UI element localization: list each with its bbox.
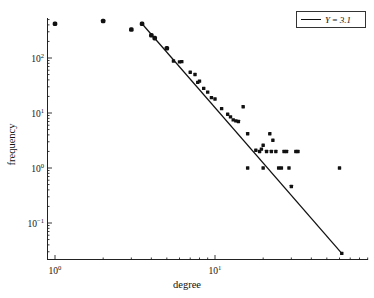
y-tick-label: 10−1	[2, 217, 44, 229]
legend-line-swatch	[301, 19, 321, 20]
fit-line	[142, 24, 342, 254]
chart-canvas	[0, 0, 374, 298]
figure: 10210110010−1 frequency degree Y = 3.1 1…	[0, 0, 374, 298]
y-axis-title: frequency	[6, 103, 17, 187]
x-axis-title: degree	[0, 279, 374, 290]
x-tick-label: 100	[49, 264, 62, 276]
data-points	[53, 19, 344, 255]
legend-label: Y = 3.1	[325, 15, 351, 25]
x-axis-ticks	[55, 255, 368, 260]
legend[interactable]: Y = 3.1	[296, 11, 366, 28]
y-axis-ticks	[47, 20, 52, 252]
y-tick-label: 102	[2, 52, 44, 64]
x-tick-label: 101	[209, 264, 222, 276]
